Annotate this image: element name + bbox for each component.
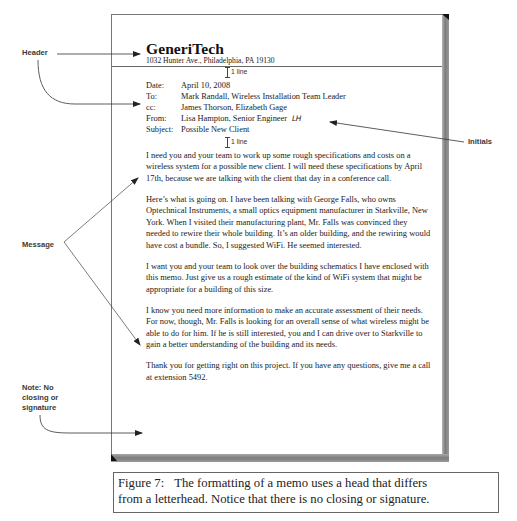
message-arrow-lower	[64, 242, 140, 345]
callout-arrows	[0, 0, 517, 521]
message-arrow-upper	[64, 178, 138, 242]
caption-text: The formatting of a memo uses a head tha…	[174, 476, 427, 490]
header-curve-arrow	[38, 60, 140, 104]
figure-caption: Figure 7:The formatting of a memo uses a…	[113, 472, 499, 513]
caption-line-1: Figure 7:The formatting of a memo uses a…	[118, 475, 498, 491]
note-curve-arrow	[40, 415, 142, 433]
initials-arrow	[330, 122, 464, 142]
figure-label: Figure 7:	[118, 476, 164, 490]
caption-line-2: from a letterhead. Notice that there is …	[118, 491, 498, 507]
